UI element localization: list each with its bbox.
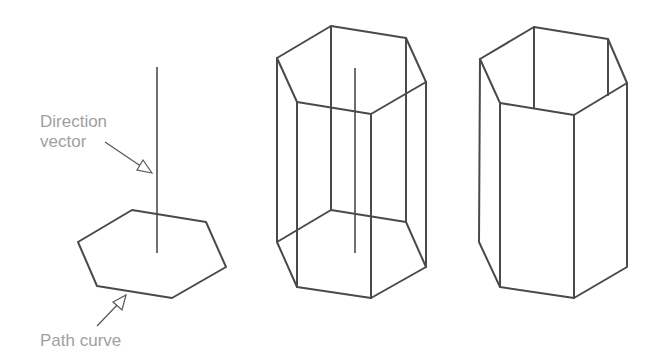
direction-vector-label: Direction vector: [40, 112, 107, 152]
direction-label-line2: vector: [40, 132, 107, 152]
path-curve-label: Path curve: [40, 331, 121, 351]
direction-label-line1: Direction: [40, 112, 107, 132]
solid-top-hexagon: [480, 27, 627, 115]
panel-solid-prism: [479, 27, 627, 298]
panel-wireframe-prism: [277, 26, 426, 298]
direction-arrow-head-icon: [137, 160, 152, 173]
prism-bottom-hexagon: [277, 210, 426, 298]
hexagon-path-curve: [78, 210, 226, 298]
panel-path-direction: [78, 67, 226, 326]
solid-front-outline: [479, 59, 627, 298]
diagram-canvas: [0, 0, 657, 362]
prism-top-hexagon: [277, 26, 426, 114]
